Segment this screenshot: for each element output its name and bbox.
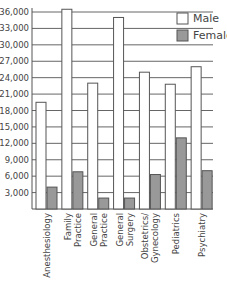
- y-tick-label: 9,000: [5, 155, 29, 165]
- bar-female: [47, 187, 57, 209]
- bar-male: [165, 84, 175, 209]
- y-tick-label: 15,000: [0, 122, 29, 132]
- bar-female: [125, 198, 135, 209]
- y-tick-label: 33,000: [0, 23, 29, 33]
- y-tick-label: 12,000: [0, 138, 29, 148]
- y-tick-label: 24,000: [0, 73, 29, 83]
- legend-label-female: Female: [193, 29, 227, 42]
- x-axis-labels: AnesthesiologyFamilyPracticeGeneralPract…: [42, 212, 207, 277]
- y-tick-label: 36,000: [0, 7, 29, 17]
- x-category-label: Psychiatry: [197, 213, 207, 257]
- bar-chart: 3,0006,0009,00012,00015,00018,00021,0002…: [0, 0, 227, 281]
- bar-female: [202, 171, 212, 209]
- x-category-label: Obstetrics/: [140, 213, 150, 259]
- x-category-label: General: [115, 213, 125, 247]
- bar-female: [99, 198, 109, 209]
- legend-label-male: Male: [193, 12, 219, 25]
- x-category-label: Family: [63, 213, 73, 240]
- legend-swatch-female: [177, 30, 188, 41]
- bar-male: [191, 67, 201, 209]
- x-category-label: Practice: [73, 213, 83, 247]
- bar-male: [88, 83, 98, 209]
- x-category-label: Surgery: [125, 213, 135, 246]
- bar-male: [139, 72, 149, 209]
- bar-female: [176, 138, 186, 209]
- x-category-label: Pediatrics: [171, 212, 181, 254]
- x-category-label: Gynecology: [150, 213, 160, 263]
- bar-male: [36, 102, 46, 209]
- bar-male: [62, 9, 72, 209]
- bar-female: [150, 175, 160, 209]
- y-tick-label: 27,000: [0, 56, 29, 66]
- legend-swatch-male: [177, 13, 188, 24]
- y-tick-label: 30,000: [0, 40, 29, 50]
- bar-female: [73, 172, 83, 209]
- y-tick-label: 21,000: [0, 89, 29, 99]
- x-category-label: Anesthesiology: [42, 213, 52, 278]
- y-tick-label: 3,000: [5, 188, 29, 198]
- bar-male: [114, 17, 124, 209]
- x-category-label: General: [89, 213, 99, 247]
- legend: Male Female: [177, 12, 227, 42]
- y-tick-label: 18,000: [0, 106, 29, 116]
- x-category-label: Practice: [99, 213, 109, 247]
- y-tick-label: 6,000: [5, 171, 29, 181]
